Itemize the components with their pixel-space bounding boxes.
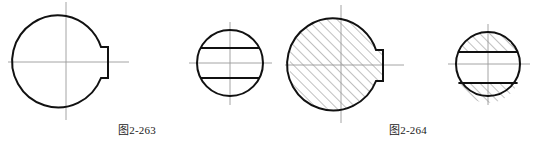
figure-3-notched-disc-sectioned [285,5,404,123]
figure-3-section-hatch [290,14,390,118]
figure-1-notched-disc-outline [8,2,129,120]
figure-2-chorded-disc-outline [189,22,272,105]
figure-caption-2-263: 图2-263 [118,124,156,137]
engineering-drawing-sheet [0,0,546,145]
figure-caption-2-264: 图2-264 [389,124,427,137]
figure-4-chorded-disc-sectioned [448,24,530,105]
figure-1-outline [12,15,108,107]
